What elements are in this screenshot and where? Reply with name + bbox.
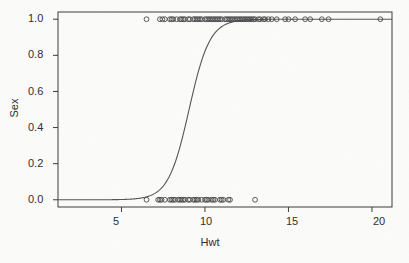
y-tick-label-0.6: 0.6 bbox=[28, 85, 43, 97]
x-tick-label-5: 5 bbox=[113, 215, 119, 227]
y-tick-label-0.2: 0.2 bbox=[28, 157, 43, 169]
y-axis-title: Sex bbox=[8, 96, 20, 120]
data-point bbox=[162, 197, 167, 202]
x-axis-title: Hwt bbox=[201, 236, 220, 248]
data-point bbox=[144, 197, 149, 202]
y-tick-label-0.4: 0.4 bbox=[28, 121, 43, 133]
logistic-fit-curve bbox=[58, 19, 392, 200]
data-point bbox=[253, 197, 258, 202]
x-tick-label-10: 10 bbox=[200, 215, 212, 227]
y-tick-label-0.0: 0.0 bbox=[28, 193, 43, 205]
y-tick-label-1.0: 1.0 bbox=[28, 12, 43, 24]
y-tick-label-0.8: 0.8 bbox=[28, 48, 43, 60]
logistic-regression-chart: 1.0 0.8 0.6 0.4 0.2 0.0 5 10 15 20 Hwt S… bbox=[0, 0, 409, 263]
data-point bbox=[144, 17, 149, 22]
series-1 bbox=[144, 197, 257, 202]
plot-frame bbox=[58, 12, 392, 207]
x-tick-label-15: 15 bbox=[286, 215, 298, 227]
x-tick-label-20: 20 bbox=[373, 215, 385, 227]
